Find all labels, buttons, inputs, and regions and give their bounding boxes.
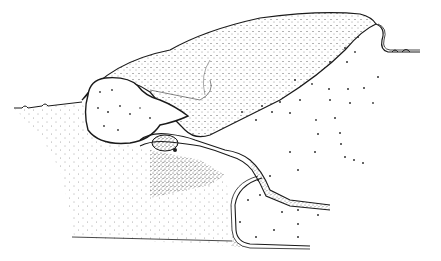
lower-right-chamber [231, 176, 310, 249]
cross-section-illustration [0, 0, 441, 261]
